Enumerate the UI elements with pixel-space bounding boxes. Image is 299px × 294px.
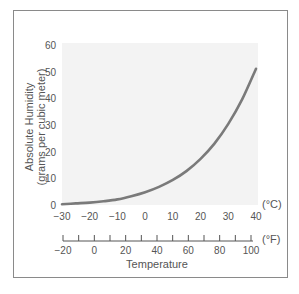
celsius-tick-label: −30 (54, 211, 71, 222)
fahrenheit-tick-label: 100 (243, 245, 260, 256)
celsius-unit-label: (°C) (262, 198, 282, 210)
y-axis-subtitle: (grams per cubic meter) (35, 69, 47, 186)
y-tick-label: 0 (50, 200, 56, 211)
celsius-tick-label: 0 (142, 211, 148, 222)
fahrenheit-tick-label: 0 (92, 245, 98, 256)
fahrenheit-tick-label: 60 (183, 245, 195, 256)
fahrenheit-tick-label: 80 (214, 245, 226, 256)
y-axis-title: Absolute Humidity (23, 82, 35, 171)
fahrenheit-tick-label: −20 (55, 245, 72, 256)
fahrenheit-tick-label: 40 (151, 245, 163, 256)
celsius-axis-ticks: −30−20−10010203040 (54, 211, 262, 222)
fahrenheit-unit-label: (°F) (262, 233, 280, 245)
celsius-tick-label: −10 (109, 211, 126, 222)
celsius-tick-label: 30 (223, 211, 235, 222)
celsius-tick-label: 20 (195, 211, 207, 222)
x-axis-title: Temperature (126, 258, 188, 270)
celsius-tick-label: 40 (250, 211, 262, 222)
y-tick-label: 60 (45, 40, 57, 51)
fahrenheit-axis: −20020406080100 (55, 235, 260, 256)
celsius-tick-label: 10 (167, 211, 179, 222)
humidity-chart: 0102030405060 −30−20−10010203040 −200204… (0, 0, 299, 294)
fahrenheit-tick-label: 20 (120, 245, 132, 256)
celsius-tick-label: −20 (81, 211, 98, 222)
